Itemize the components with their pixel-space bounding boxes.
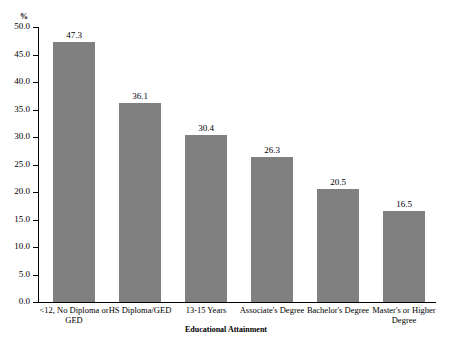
y-tick-2: 10.0 [33,247,38,248]
y-tick-8: 40.0 [33,82,38,83]
bar-0[interactable] [53,42,95,302]
bar-1[interactable] [119,103,161,302]
y-tick-label-1: 5.0 [19,269,30,279]
plot-area: 0.0 5.0 10.0 15.0 20.0 25.0 30.0 35.0 40… [38,27,436,303]
y-tick-4: 20.0 [33,192,38,193]
y-tick-label-7: 35.0 [14,104,30,114]
category-label-2: 13-15 Years [171,305,241,315]
y-tick-label-0: 0.0 [19,296,30,306]
y-tick-6: 30.0 [33,137,38,138]
bar-value-0: 47.3 [53,30,95,40]
bar-slot-2: 30.4 13-15 Years [185,27,227,302]
bar-4[interactable] [317,189,359,302]
bar-value-5: 16.5 [383,199,425,209]
y-tick-label-2: 10.0 [14,241,30,251]
y-tick-label-3: 15.0 [14,214,30,224]
y-tick-1: 5.0 [33,275,38,276]
bar-slot-1: 36.1 HS Diploma/GED [119,27,161,302]
y-tick-5: 25.0 [33,165,38,166]
y-tick-label-5: 25.0 [14,159,30,169]
category-label-0: <12, No Diploma or GED [39,305,109,325]
y-tick-3: 15.0 [33,220,38,221]
bar-chart: % 0.0 5.0 10.0 15.0 20.0 25.0 30.0 35.0 … [0,0,452,348]
category-label-1: HS Diploma/GED [105,305,175,315]
bar-value-2: 30.4 [185,123,227,133]
category-label-4: Bachelor's Degree [303,305,373,315]
y-tick-label-8: 40.0 [14,76,30,86]
bar-value-1: 36.1 [119,91,161,101]
y-tick-label-4: 20.0 [14,186,30,196]
bar-slot-3: 26.3 Associate's Degree [251,27,293,302]
bar-value-3: 26.3 [251,145,293,155]
bar-series: 47.3 <12, No Diploma or GED 36.1 HS Dipl… [39,27,436,302]
y-tick-label-9: 45.0 [14,49,30,59]
bar-5[interactable] [383,211,425,302]
bar-slot-4: 20.5 Bachelor's Degree [317,27,359,302]
bar-value-4: 20.5 [317,177,359,187]
y-tick-9: 45.0 [33,55,38,56]
category-label-3: Associate's Degree [237,305,307,315]
y-tick-10: 50.0 [33,27,38,28]
y-tick-label-6: 30.0 [14,131,30,141]
bar-slot-5: 16.5 Master's or Higher Degree [383,27,425,302]
bar-slot-0: 47.3 <12, No Diploma or GED [53,27,95,302]
bar-2[interactable] [185,135,227,302]
x-axis-line [38,302,436,303]
category-label-5: Master's or Higher Degree [369,305,439,325]
y-tick-7: 35.0 [33,110,38,111]
y-tick-label-10: 50.0 [14,21,30,31]
x-axis-title: Educational Attainment [0,325,452,334]
y-tick-0: 0.0 [33,302,38,303]
bar-3[interactable] [251,157,293,302]
y-axis-unit-label: % [20,12,28,21]
